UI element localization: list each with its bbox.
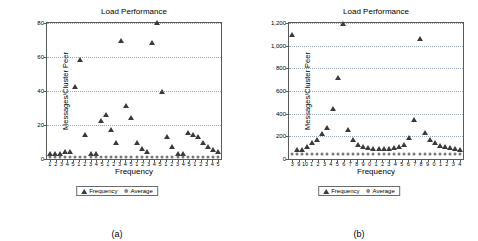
y-tick-label: 60 [37,54,44,60]
gridline [289,91,463,92]
data-point [423,153,426,156]
chart-panel-a: Load Performance Messages/Cluster Peer 0… [6,6,228,206]
gridline [47,91,221,92]
data-point [98,118,104,123]
data-point [94,156,97,159]
data-point [145,156,148,159]
data-point [215,149,221,154]
data-point [130,156,133,159]
triangle-icon [81,189,87,194]
data-point [176,156,179,159]
data-point [319,131,325,136]
circle-icon [125,189,129,193]
data-point [433,153,436,156]
data-point [63,156,66,159]
y-tick-label: 1,000 [271,43,286,49]
data-point [377,153,380,156]
data-point [181,156,184,159]
data-point [335,75,341,80]
plot-area-b: Messages/Cluster Peer 02004006008001,000… [288,22,464,160]
y-tick-label: 600 [276,88,286,94]
chart-title-a: Load Performance [46,7,222,16]
data-point [330,106,336,111]
data-point [382,153,385,156]
circle-icon [367,189,371,193]
caption-a: (a) [6,229,228,239]
y-tick-label: 40 [37,88,44,94]
data-point [290,153,293,156]
data-point [357,153,360,156]
data-point [84,156,87,159]
y-tick-mark [286,136,289,137]
data-point [289,32,295,37]
data-point [413,153,416,156]
data-point [417,36,423,41]
data-point [401,142,407,147]
data-point [449,153,452,156]
y-tick-mark [44,23,47,24]
y-tick-mark [286,114,289,115]
data-point [159,89,165,94]
y-tick-mark [286,46,289,47]
data-point [406,135,412,140]
data-point [454,153,457,156]
data-point [164,134,170,139]
data-point [89,156,92,159]
data-point [135,156,138,159]
caption-b: (b) [248,229,470,239]
y-tick-label: 20 [37,122,44,128]
data-point [118,38,124,43]
y-tick-label: 0 [283,156,286,162]
data-point [418,153,421,156]
y-tick-mark [44,159,47,160]
data-point [69,156,72,159]
data-point [326,153,329,156]
data-point [123,103,129,108]
data-point [392,153,395,156]
data-point [367,153,370,156]
data-point [411,117,417,122]
data-point [103,112,109,117]
x-axis-label-b: Frequency [288,167,464,176]
legend-label-frequency-b: Frequency [331,188,359,194]
data-point [428,153,431,156]
gridline [47,125,221,126]
data-point [156,156,159,159]
data-point [171,156,174,159]
data-point [345,127,351,132]
data-point [113,140,119,145]
y-tick-mark [44,125,47,126]
legend-a: Frequency Average [76,186,158,196]
data-point [195,134,201,139]
y-tick-label: 1,200 [271,20,286,26]
data-point [351,153,354,156]
legend-item-average-a: Average [125,188,153,194]
data-point [186,156,189,159]
data-point [457,147,463,152]
data-point [202,156,205,159]
data-point [314,137,320,142]
data-point [459,153,462,156]
data-point [161,156,164,159]
data-point [324,125,330,130]
y-tick-label: 400 [276,111,286,117]
data-point [115,156,118,159]
data-point [74,156,77,159]
data-point [387,153,390,156]
gridline [289,23,463,24]
gridline [289,46,463,47]
legend-label-average-a: Average [131,188,153,194]
data-point [321,153,324,156]
data-point [58,156,61,159]
data-point [336,153,339,156]
data-point [77,57,83,62]
y-tick-mark [44,91,47,92]
triangle-icon [323,189,329,194]
chart-title-b: Load Performance [288,7,464,16]
y-tick-mark [286,159,289,160]
data-point [398,153,401,156]
data-point [108,127,114,132]
data-point [341,153,344,156]
data-point [53,156,56,159]
data-point [311,153,314,156]
